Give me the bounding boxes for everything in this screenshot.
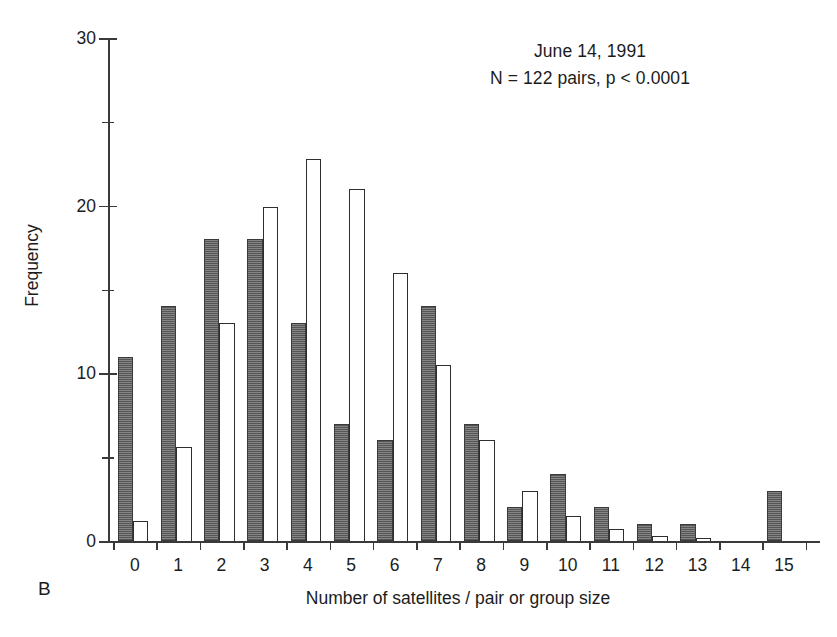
bar-observed-7 — [421, 306, 436, 541]
y-tick-label: 0 — [86, 531, 96, 552]
bar-observed-12 — [637, 524, 652, 541]
x-tick-mark-9 — [503, 541, 505, 550]
bar-observed-0 — [118, 357, 133, 541]
x-tick-mark-14 — [719, 541, 721, 550]
plot-area: 0102030 0123456789101112131415 — [108, 38, 820, 541]
x-tick-mark-2 — [200, 541, 202, 550]
bar-expected-0 — [133, 521, 148, 541]
x-tick-mark-end — [806, 541, 808, 550]
x-tick-mark-3 — [243, 541, 245, 550]
panel-label: B — [38, 578, 51, 600]
x-tick-label-6: 6 — [390, 555, 400, 576]
x-tick-mark-1 — [156, 541, 158, 550]
x-tick-mark-13 — [676, 541, 678, 550]
y-axis-title: Frequency — [22, 156, 43, 376]
bar-expected-13 — [696, 538, 711, 541]
x-tick-mark-11 — [589, 541, 591, 550]
x-tick-label-1: 1 — [173, 555, 183, 576]
x-tick-label-13: 13 — [688, 555, 707, 576]
x-tick-mark-10 — [546, 541, 548, 550]
x-tick-label-8: 8 — [476, 555, 486, 576]
y-tick-label: 30 — [77, 28, 96, 49]
y-tick-label: 20 — [77, 195, 96, 216]
bar-expected-9 — [522, 491, 537, 541]
bar-observed-10 — [550, 474, 565, 541]
x-tick-mark-8 — [459, 541, 461, 550]
x-tick-mark-6 — [373, 541, 375, 550]
bar-expected-8 — [479, 440, 494, 541]
x-tick-mark-4 — [286, 541, 288, 550]
x-tick-mark-0 — [113, 541, 115, 550]
x-tick-label-2: 2 — [217, 555, 227, 576]
x-tick-label-11: 11 — [602, 555, 620, 576]
bar-expected-4 — [306, 159, 321, 541]
bar-expected-10 — [566, 516, 581, 541]
bar-expected-11 — [609, 529, 624, 541]
bar-expected-12 — [652, 536, 667, 541]
bar-observed-3 — [247, 239, 262, 541]
bar-observed-9 — [507, 507, 522, 541]
x-tick-label-14: 14 — [731, 555, 750, 576]
bar-series-group — [108, 38, 820, 541]
bar-observed-1 — [161, 306, 176, 541]
bar-observed-4 — [291, 323, 306, 541]
bar-expected-2 — [219, 323, 234, 541]
x-tick-mark-5 — [330, 541, 332, 550]
x-axis-line — [108, 541, 820, 543]
bar-observed-2 — [204, 239, 219, 541]
bar-observed-11 — [594, 507, 609, 541]
x-tick-label-4: 4 — [303, 555, 313, 576]
bar-expected-5 — [349, 189, 364, 541]
bar-observed-13 — [680, 524, 695, 541]
x-tick-mark-7 — [416, 541, 418, 550]
figure-panel-b: June 14, 1991 N = 122 pairs, p < 0.0001 … — [0, 0, 837, 637]
x-tick-label-10: 10 — [558, 555, 577, 576]
y-tick-label: 10 — [77, 363, 96, 384]
x-tick-label-3: 3 — [260, 555, 270, 576]
bar-expected-3 — [263, 207, 278, 541]
x-tick-label-15: 15 — [774, 555, 793, 576]
bar-expected-1 — [176, 447, 191, 541]
bar-expected-6 — [393, 273, 408, 541]
x-tick-label-0: 0 — [130, 555, 140, 576]
bar-observed-6 — [377, 440, 392, 541]
bar-observed-8 — [464, 424, 479, 541]
x-tick-mark-15 — [762, 541, 764, 550]
x-tick-mark-12 — [633, 541, 635, 550]
bar-observed-5 — [334, 424, 349, 541]
x-tick-label-7: 7 — [433, 555, 443, 576]
x-tick-label-9: 9 — [520, 555, 530, 576]
bar-expected-7 — [436, 365, 451, 541]
x-tick-label-5: 5 — [346, 555, 356, 576]
bar-observed-15 — [767, 491, 782, 541]
x-axis-title: Number of satellites / pair or group siz… — [108, 588, 808, 609]
x-tick-label-12: 12 — [644, 555, 663, 576]
